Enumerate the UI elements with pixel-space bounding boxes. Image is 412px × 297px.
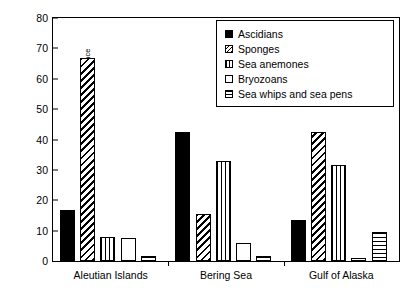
- legend-label-1: Sponges: [238, 43, 279, 55]
- legend-item-3: Bryozoans: [225, 71, 387, 86]
- legend-label-3: Bryozoans: [238, 73, 288, 85]
- bar-0-2: [100, 237, 115, 261]
- y-tick-mark-10: [53, 230, 58, 231]
- bar-0-1: [80, 58, 95, 262]
- bar-1-2: [216, 161, 231, 261]
- y-tick-mark-60: [53, 78, 58, 79]
- legend-item-0: Ascidians: [225, 26, 387, 41]
- legend-swatch-2: [225, 60, 233, 68]
- legend-swatch-4: [225, 90, 233, 98]
- y-tick-label-60: 60: [36, 73, 48, 85]
- y-tick-label-50: 50: [36, 103, 48, 115]
- y-tick-label-80: 80: [36, 12, 48, 24]
- y-tick-mark-80: [53, 18, 58, 19]
- y-tick-label-70: 70: [36, 42, 48, 54]
- bar-1-1: [196, 214, 211, 261]
- x-axis-label-1: Bering Sea: [200, 269, 252, 281]
- legend-label-2: Sea anemones: [238, 58, 309, 70]
- y-tick-mark-30: [53, 169, 58, 170]
- legend-swatch-0: [225, 30, 233, 38]
- y-tick-label-40: 40: [36, 134, 48, 146]
- legend-item-4: Sea whips and sea pens: [225, 86, 387, 101]
- bar-0-0: [60, 210, 75, 261]
- bar-0-4: [141, 256, 156, 261]
- legend-label-4: Sea whips and sea pens: [238, 88, 352, 100]
- legend-item-2: Sea anemones: [225, 56, 387, 71]
- x-axis-separator-1: [168, 261, 169, 266]
- bar-1-4: [256, 256, 271, 261]
- bar-0-3: [121, 238, 136, 261]
- bar-chart: 01020304050607080 Percentage of occurren…: [0, 0, 412, 297]
- y-tick-label-20: 20: [36, 194, 48, 206]
- y-tick-mark-70: [53, 48, 58, 49]
- y-tick-mark-50: [53, 109, 58, 110]
- bar-2-1: [311, 132, 326, 261]
- bar-1-3: [236, 243, 251, 261]
- x-axis-separator-2: [284, 261, 285, 266]
- legend-label-0: Ascidians: [238, 28, 283, 40]
- bar-2-0: [291, 220, 306, 261]
- legend-item-1: Sponges: [225, 41, 387, 56]
- bar-2-4: [372, 232, 387, 261]
- y-tick-mark-40: [53, 139, 58, 140]
- legend-swatch-1: [225, 45, 233, 53]
- x-axis-label-2: Gulf of Alaska: [309, 269, 374, 281]
- bar-2-2: [331, 165, 346, 261]
- y-tick-label-0: 0: [42, 255, 48, 267]
- y-tick-mark-20: [53, 200, 58, 201]
- bar-2-3: [351, 258, 366, 261]
- bar-1-0: [175, 132, 190, 261]
- y-tick-label-10: 10: [36, 225, 48, 237]
- legend: AscidiansSpongesSea anemonesBryozoansSea…: [216, 20, 394, 107]
- y-tick-label-30: 30: [36, 164, 48, 176]
- x-axis-label-0: Aleutian Islands: [74, 269, 148, 281]
- legend-swatch-3: [225, 75, 233, 83]
- bar-group-0: [60, 18, 161, 261]
